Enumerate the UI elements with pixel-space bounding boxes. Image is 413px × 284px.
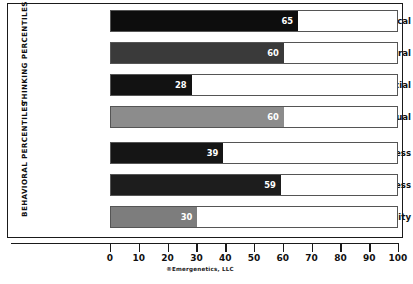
x-tick-10	[139, 243, 140, 252]
x-tick-label-30: 30	[181, 254, 211, 263]
bar-value-social: 28	[175, 81, 192, 89]
bar-fill-analytical: 65	[111, 11, 298, 31]
bar-track-expressiveness: 39	[110, 142, 398, 164]
bar-value-expressiveness: 39	[207, 149, 224, 157]
bar-fill-conceptual: 60	[111, 107, 284, 127]
bar-track-assertiveness: 59	[110, 174, 398, 196]
bar-value-conceptual: 60	[267, 113, 284, 121]
x-tick-0	[110, 243, 111, 252]
x-tick-50	[254, 243, 255, 252]
x-tick-70	[312, 243, 313, 252]
x-tick-label-20: 20	[153, 254, 183, 263]
bar-fill-social: 28	[111, 75, 192, 95]
bar-fill-structural: 60	[111, 43, 284, 63]
x-tick-30	[196, 243, 197, 252]
x-tick-label-70: 70	[297, 254, 327, 263]
bar-fill-expressiveness: 39	[111, 143, 223, 163]
bar-fill-assertiveness: 59	[111, 175, 281, 195]
bar-track-flexibility: 30	[110, 206, 398, 228]
bar-value-flexibility: 30	[181, 213, 198, 221]
bar-track-structural: 60	[110, 42, 398, 64]
bar-track-social: 28	[110, 74, 398, 96]
x-tick-label-60: 60	[268, 254, 298, 263]
x-tick-label-100: 100	[383, 254, 413, 263]
x-tick-90	[369, 243, 370, 252]
copyright-attribution: ®Emergenetics, LLC	[110, 266, 290, 272]
x-tick-80	[340, 243, 341, 252]
bar-value-assertiveness: 59	[264, 181, 281, 189]
x-tick-label-0: 0	[95, 254, 125, 263]
bar-fill-flexibility: 30	[111, 207, 197, 227]
x-tick-label-80: 80	[325, 254, 355, 263]
x-tick-40	[225, 243, 226, 252]
x-tick-label-40: 40	[210, 254, 240, 263]
bar-value-analytical: 65	[282, 17, 299, 25]
bar-value-structural: 60	[267, 49, 284, 57]
x-tick-label-10: 10	[124, 254, 154, 263]
bar-track-analytical: 65	[110, 10, 398, 32]
x-tick-20	[168, 243, 169, 252]
x-tick-100	[398, 243, 399, 252]
x-tick-label-90: 90	[354, 254, 384, 263]
axis-label-behavioral-percentiles: BEHAVIORAL PERCENTILES	[20, 84, 29, 234]
x-tick-label-50: 50	[239, 254, 269, 263]
x-tick-60	[283, 243, 284, 252]
bar-track-conceptual: 60	[110, 106, 398, 128]
